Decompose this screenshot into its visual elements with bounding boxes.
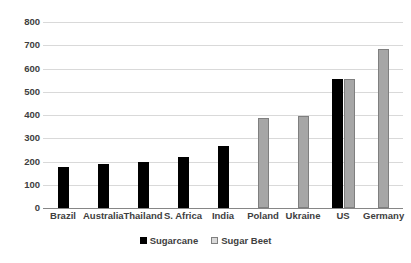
bar-chart: 8007006005004003002001000 BrazilAustrali…	[0, 0, 411, 263]
bar-sugarcane-india	[218, 146, 229, 208]
x-axis-tick-label: Brazil	[43, 210, 83, 222]
bar-group	[203, 22, 243, 208]
y-axis-tick-label: 800	[6, 17, 40, 27]
bar-group	[243, 22, 283, 208]
y-axis-tick-label: 500	[6, 87, 40, 97]
y-axis: 8007006005004003002001000	[0, 0, 40, 263]
bar-sugarcane-thailand	[138, 162, 149, 208]
x-axis-tick-label: Germany	[363, 210, 403, 222]
bar-sugar-beet-germany	[378, 49, 389, 208]
legend-item-label: Sugar Beet	[221, 236, 271, 246]
x-axis-tick-label: Poland	[243, 210, 283, 222]
chart-legend: SugarcaneSugar Beet	[0, 236, 411, 246]
legend-item[interactable]: Sugar Beet	[211, 236, 271, 246]
y-axis-tick-label: 0	[6, 203, 40, 213]
bar-sugarcane-us	[332, 79, 343, 208]
y-axis-tick-label: 700	[6, 40, 40, 50]
x-axis-tick-label: Thailand	[123, 210, 163, 222]
legend-swatch-icon	[211, 237, 218, 244]
bar-sugar-beet-ukraine	[298, 116, 309, 208]
bar-group	[163, 22, 203, 208]
bar-group	[83, 22, 123, 208]
legend-swatch-icon	[140, 237, 147, 244]
y-axis-tick-label: 400	[6, 110, 40, 120]
bar-sugar-beet-poland	[258, 118, 269, 208]
gridline	[43, 208, 403, 209]
bars-layer	[43, 22, 403, 208]
y-axis-tick-label: 600	[6, 64, 40, 74]
bar-group	[283, 22, 323, 208]
bar-sugarcane-brazil	[58, 167, 69, 208]
x-axis-tick-label: S. Africa	[163, 210, 203, 222]
bar-group	[43, 22, 83, 208]
plot-area	[43, 22, 403, 208]
bar-group	[323, 22, 363, 208]
legend-item[interactable]: Sugarcane	[140, 236, 199, 246]
bar-sugarcane-s-africa	[178, 157, 189, 208]
y-axis-tick-label: 300	[6, 133, 40, 143]
x-axis: BrazilAustraliaThailandS. AfricaIndiaPol…	[43, 210, 403, 228]
bar-group	[363, 22, 403, 208]
x-axis-tick-label: US	[323, 210, 363, 222]
bar-group	[123, 22, 163, 208]
x-axis-tick-label: Ukraine	[283, 210, 323, 222]
y-axis-tick-label: 200	[6, 157, 40, 167]
x-axis-tick-label: Australia	[83, 210, 123, 222]
bar-sugarcane-australia	[98, 164, 109, 208]
legend-item-label: Sugarcane	[150, 236, 199, 246]
bar-sugar-beet-us	[344, 79, 355, 209]
y-axis-tick-label: 100	[6, 180, 40, 190]
x-axis-tick-label: India	[203, 210, 243, 222]
